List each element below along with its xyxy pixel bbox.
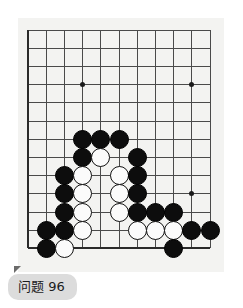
white-stone[interactable]	[164, 221, 183, 240]
board-edge-left	[27, 30, 29, 248]
grid-line-horizontal	[28, 48, 210, 49]
grid-line-horizontal	[28, 66, 210, 67]
white-stone[interactable]	[128, 221, 147, 240]
problem-label: 问题 96	[8, 274, 77, 300]
black-stone[interactable]	[128, 203, 147, 222]
black-stone[interactable]	[37, 239, 56, 258]
black-stone[interactable]	[73, 130, 92, 149]
grid-line-horizontal	[28, 102, 210, 103]
black-stone[interactable]	[55, 166, 74, 185]
white-stone[interactable]	[110, 166, 129, 185]
black-stone[interactable]	[73, 148, 92, 167]
white-stone[interactable]	[73, 166, 92, 185]
black-stone[interactable]	[164, 239, 183, 258]
black-stone[interactable]	[110, 130, 129, 149]
white-stone[interactable]	[73, 221, 92, 240]
black-stone[interactable]	[55, 203, 74, 222]
white-stone[interactable]	[55, 239, 74, 258]
go-problem-screen: 问题 96	[0, 0, 243, 308]
caption-container: 问题 96	[8, 274, 77, 300]
hoshi-star-point	[80, 82, 85, 87]
black-stone[interactable]	[182, 221, 201, 240]
hoshi-star-point	[189, 82, 194, 87]
black-stone[interactable]	[37, 221, 56, 240]
black-stone[interactable]	[201, 221, 220, 240]
black-stone[interactable]	[128, 148, 147, 167]
grid-line-horizontal	[28, 84, 210, 85]
black-stone[interactable]	[128, 184, 147, 203]
caption-pointer-icon	[14, 266, 21, 273]
black-stone[interactable]	[128, 166, 147, 185]
black-stone[interactable]	[55, 184, 74, 203]
grid-line-horizontal	[28, 157, 210, 158]
black-stone[interactable]	[146, 203, 165, 222]
go-board-panel	[18, 18, 224, 272]
white-stone[interactable]	[91, 148, 110, 167]
black-stone[interactable]	[91, 130, 110, 149]
black-stone[interactable]	[164, 203, 183, 222]
white-stone[interactable]	[110, 184, 129, 203]
white-stone[interactable]	[146, 221, 165, 240]
white-stone[interactable]	[73, 203, 92, 222]
grid-line-horizontal	[28, 121, 210, 122]
go-board-grid[interactable]	[18, 18, 224, 272]
white-stone[interactable]	[110, 203, 129, 222]
black-stone[interactable]	[55, 221, 74, 240]
grid-line-horizontal	[28, 30, 210, 31]
hoshi-star-point	[189, 191, 194, 196]
white-stone[interactable]	[73, 184, 92, 203]
